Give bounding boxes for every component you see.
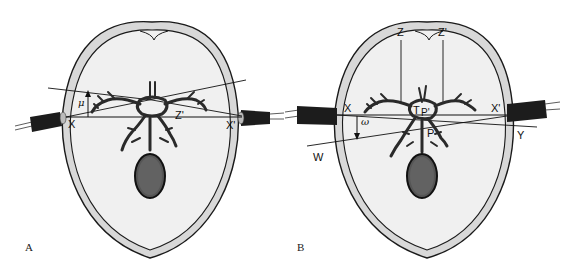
panel-a-drawing [0,0,285,271]
ear-bar-right [238,110,284,126]
label-x: X [344,103,351,114]
label-mu-angle: μ [78,98,85,108]
label-omega-angle: ω [361,117,369,127]
label-w: W [313,152,323,163]
label-x: X [68,119,75,130]
label-z-prime: Z' [175,110,184,121]
label-z: Z [397,27,404,38]
panel-label-b: B [297,241,304,253]
panel-label-a: A [25,241,33,253]
label-z-prime: Z' [438,27,447,38]
ear-bar-left [285,106,337,125]
label-t: T [413,105,420,116]
label-p: P [427,128,434,139]
ear-bar-right [507,100,560,122]
label-x-prime: X' [226,120,235,131]
ear-bar-left [15,112,66,132]
label-p-prime: P' [421,108,430,118]
label-x-prime: X' [491,103,500,114]
label-y: Y [517,130,524,141]
panel-a: X X' Z' μ A [0,0,285,271]
panel-b: Z Z' X X' T P' P W Y ω B [285,0,570,271]
